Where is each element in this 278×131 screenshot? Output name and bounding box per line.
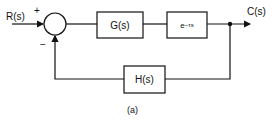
minus-sign: − — [40, 40, 46, 50]
caption: (a) — [127, 106, 138, 115]
h-block-label: H(s) — [124, 66, 165, 93]
output-label: C(s) — [247, 7, 266, 17]
plus-sign: + — [34, 6, 40, 16]
delay-block-label: e−τs — [167, 12, 207, 38]
input-label: R(s) — [6, 12, 25, 22]
delay-exponent: −τs — [185, 22, 194, 28]
summing-junction — [44, 13, 66, 35]
feedback-arrow — [55, 36, 124, 79]
g-block-label: G(s) — [97, 12, 143, 38]
